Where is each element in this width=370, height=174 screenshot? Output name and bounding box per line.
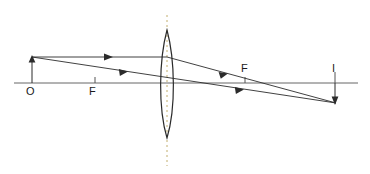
label-image-point: I	[332, 63, 335, 74]
label-object-point: O	[26, 86, 35, 97]
optics-ray-diagram: O F F I	[0, 0, 370, 174]
ray-direction-arrow-2	[119, 69, 128, 76]
ray-parallel-refracted	[167, 57, 336, 103]
label-focal-right: F	[241, 63, 248, 74]
ray-through-center	[32, 57, 336, 103]
ray-direction-arrow-1	[104, 53, 113, 60]
image-arrow-head	[332, 97, 339, 106]
label-focal-left: F	[89, 86, 96, 97]
object-arrow-head	[29, 55, 36, 63]
diagram-canvas	[0, 0, 370, 174]
